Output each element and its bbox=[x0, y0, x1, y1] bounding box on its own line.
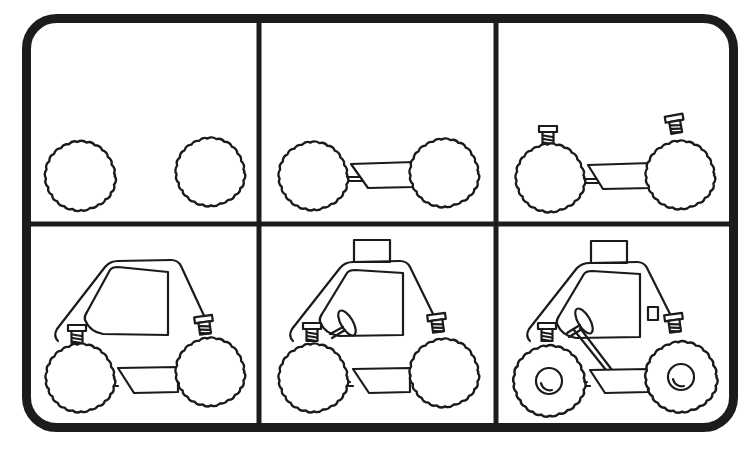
panel-step-3 bbox=[515, 114, 715, 213]
wheel-icon bbox=[278, 141, 348, 210]
roof-box bbox=[354, 240, 390, 262]
panel-step-2 bbox=[278, 138, 479, 210]
wheel-icon bbox=[175, 137, 245, 206]
wheel-icon bbox=[278, 343, 348, 412]
wheel-icon bbox=[515, 143, 585, 212]
spring-icon bbox=[539, 126, 557, 144]
spring-icon bbox=[665, 114, 686, 135]
wheel-icon bbox=[45, 343, 115, 412]
wheel-icon bbox=[409, 138, 479, 207]
side-light bbox=[648, 307, 658, 320]
wheel-icon bbox=[409, 338, 479, 407]
hubcap-icon bbox=[536, 368, 562, 394]
panel-step-6 bbox=[513, 241, 718, 417]
wheel-icon bbox=[45, 141, 116, 211]
panel-step-1 bbox=[45, 137, 246, 211]
wheel-icon bbox=[645, 140, 715, 209]
roof-box bbox=[591, 241, 627, 263]
drawing-worksheet: How to draw a dune buggy bbox=[0, 0, 751, 459]
hubcap-icon bbox=[668, 364, 694, 390]
panel-step-5 bbox=[278, 240, 479, 412]
panel-step-4 bbox=[45, 260, 245, 412]
chassis-shape bbox=[351, 162, 414, 188]
wheel-icon bbox=[175, 337, 245, 406]
